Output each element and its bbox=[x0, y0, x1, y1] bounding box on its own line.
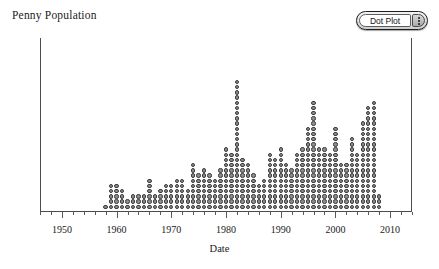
data-point bbox=[284, 184, 288, 188]
data-point bbox=[180, 199, 184, 203]
data-point bbox=[120, 205, 124, 209]
data-point bbox=[311, 173, 315, 177]
data-point bbox=[350, 168, 354, 172]
data-point bbox=[224, 158, 228, 162]
data-point bbox=[300, 153, 304, 157]
data-point bbox=[344, 173, 348, 177]
data-point bbox=[339, 173, 343, 177]
data-point bbox=[366, 111, 370, 115]
data-point bbox=[279, 205, 283, 209]
x-axis-tick-label: 2010 bbox=[380, 224, 400, 235]
data-point bbox=[322, 189, 326, 193]
data-point bbox=[295, 158, 299, 162]
data-point bbox=[328, 179, 332, 183]
data-point bbox=[191, 189, 195, 193]
data-point bbox=[229, 199, 233, 203]
data-point bbox=[333, 194, 337, 198]
data-point bbox=[306, 127, 310, 131]
data-point bbox=[322, 168, 326, 172]
data-point bbox=[311, 111, 315, 115]
data-point bbox=[328, 199, 332, 203]
kebab-vertical-icon[interactable] bbox=[412, 14, 425, 27]
data-point bbox=[295, 168, 299, 172]
x-axis-tick-labels: 1950196019701980199020002010 bbox=[40, 224, 412, 240]
data-point bbox=[372, 111, 376, 115]
data-point bbox=[333, 142, 337, 146]
data-point bbox=[328, 173, 332, 177]
data-point bbox=[251, 199, 255, 203]
data-point bbox=[114, 194, 118, 198]
data-point bbox=[235, 127, 239, 131]
plot-type-value[interactable]: Dot Plot bbox=[359, 14, 411, 27]
data-point bbox=[311, 106, 315, 110]
data-point bbox=[224, 199, 228, 203]
data-point bbox=[366, 184, 370, 188]
data-point bbox=[361, 205, 365, 209]
x-axis-minor-tick bbox=[292, 212, 293, 215]
x-axis-minor-tick bbox=[106, 212, 107, 215]
data-point bbox=[328, 184, 332, 188]
data-point bbox=[229, 173, 233, 177]
data-point bbox=[366, 189, 370, 193]
data-point bbox=[103, 205, 107, 209]
data-point bbox=[289, 184, 293, 188]
data-point bbox=[350, 179, 354, 183]
data-point bbox=[300, 205, 304, 209]
data-point bbox=[262, 205, 266, 209]
data-point bbox=[196, 173, 200, 177]
data-point bbox=[306, 147, 310, 151]
data-point bbox=[147, 194, 151, 198]
data-point bbox=[322, 158, 326, 162]
data-point bbox=[279, 194, 283, 198]
data-point bbox=[333, 153, 337, 157]
data-point bbox=[191, 199, 195, 203]
data-point bbox=[169, 199, 173, 203]
data-point bbox=[355, 158, 359, 162]
data-point bbox=[344, 199, 348, 203]
data-point bbox=[350, 147, 354, 151]
data-point bbox=[257, 194, 261, 198]
data-point bbox=[311, 142, 315, 146]
data-point bbox=[361, 121, 365, 125]
data-point bbox=[311, 163, 315, 167]
data-point bbox=[224, 173, 228, 177]
data-point bbox=[235, 132, 239, 136]
data-point bbox=[207, 184, 211, 188]
data-point bbox=[158, 199, 162, 203]
data-point bbox=[109, 199, 113, 203]
data-point bbox=[328, 168, 332, 172]
x-axis-minor-tick bbox=[149, 212, 150, 215]
data-point bbox=[372, 121, 376, 125]
data-point bbox=[235, 85, 239, 89]
data-point bbox=[125, 199, 129, 203]
plot-type-selector[interactable]: Dot Plot bbox=[356, 11, 428, 30]
data-point bbox=[322, 147, 326, 151]
data-point bbox=[311, 137, 315, 141]
data-point bbox=[366, 142, 370, 146]
data-point bbox=[344, 184, 348, 188]
x-axis-major-tick bbox=[62, 212, 63, 218]
data-point bbox=[372, 101, 376, 105]
data-point bbox=[311, 184, 315, 188]
data-point bbox=[229, 153, 233, 157]
data-point bbox=[235, 158, 239, 162]
data-point bbox=[372, 127, 376, 131]
data-point bbox=[279, 189, 283, 193]
data-point bbox=[350, 194, 354, 198]
data-point bbox=[131, 194, 135, 198]
data-point bbox=[372, 168, 376, 172]
data-point bbox=[235, 189, 239, 193]
data-point bbox=[333, 199, 337, 203]
data-point bbox=[306, 199, 310, 203]
data-point bbox=[311, 205, 315, 209]
data-point bbox=[306, 189, 310, 193]
data-point bbox=[328, 163, 332, 167]
data-point bbox=[372, 147, 376, 151]
x-axis-major-tick bbox=[226, 212, 227, 218]
data-point bbox=[268, 199, 272, 203]
data-point bbox=[284, 179, 288, 183]
data-point bbox=[317, 173, 321, 177]
data-point bbox=[235, 194, 239, 198]
data-point bbox=[311, 153, 315, 157]
data-point bbox=[229, 168, 233, 172]
